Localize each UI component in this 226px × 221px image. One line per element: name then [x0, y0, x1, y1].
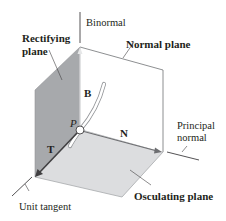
- unit-tangent-leader: [25, 184, 29, 191]
- tnb-frame-diagram: Binormal Rectifying plane Normal plane B…: [0, 0, 226, 221]
- vector-t-label: T: [47, 143, 55, 155]
- principal-normal-line: [167, 152, 199, 160]
- principal-normal-label-line2: normal: [177, 132, 207, 143]
- point-p-label: P: [69, 117, 77, 129]
- binormal-label: Binormal: [86, 17, 126, 28]
- principal-normal-leader: [182, 146, 187, 152]
- unit-tangent-label: Unit tangent: [19, 201, 71, 212]
- principal-normal-label-line1: Principal: [177, 120, 215, 131]
- normal-plane-label: Normal plane: [126, 38, 191, 50]
- vector-b-label: B: [84, 87, 92, 99]
- osculating-plane-label: Osculating plane: [134, 190, 213, 202]
- rectifying-plane-label-line2: plane: [22, 45, 48, 57]
- point-p-marker: [76, 126, 84, 134]
- unit-tangent-line: [12, 177, 32, 196]
- vector-n-label: N: [120, 127, 128, 139]
- rectifying-plane-label-line1: Rectifying: [22, 32, 71, 44]
